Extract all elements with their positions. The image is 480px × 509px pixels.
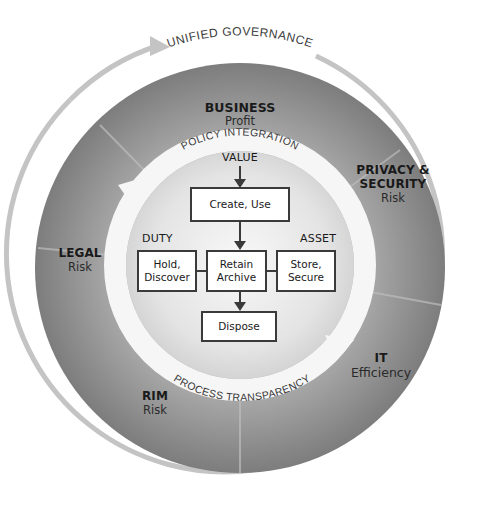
hold-text-line1: Hold, xyxy=(153,258,180,271)
rim-subtitle: Risk xyxy=(130,404,180,417)
unified-governance-label: UNIFIED GOVERNANCE xyxy=(165,24,315,50)
sector-legal: LEGAL Risk xyxy=(52,247,108,274)
it-title: IT xyxy=(346,352,416,366)
svg-text:UNIFIED GOVERNANCE: UNIFIED GOVERNANCE xyxy=(165,24,315,50)
hold-discover-box: Hold, Discover xyxy=(137,250,197,292)
duty-label: DUTY xyxy=(142,232,173,245)
sector-rim: RIM Risk xyxy=(130,390,180,417)
privacy-title-line1: PRIVACY & xyxy=(350,164,436,178)
create-use-box: Create, Use xyxy=(190,187,290,222)
business-title: BUSINESS xyxy=(195,101,285,115)
legal-subtitle: Risk xyxy=(52,261,108,274)
store-text-line1: Store, xyxy=(290,258,321,271)
retain-text-line2: Archive xyxy=(217,271,256,284)
sector-privacy-security: PRIVACY & SECURITY Risk xyxy=(350,164,436,205)
privacy-subtitle: Risk xyxy=(350,192,436,205)
rim-title: RIM xyxy=(130,390,180,404)
value-label: VALUE xyxy=(215,151,265,164)
dispose-box: Dispose xyxy=(201,311,277,342)
dispose-text: Dispose xyxy=(218,320,260,333)
sector-business: BUSINESS Profit xyxy=(195,101,285,129)
privacy-title-line2: SECURITY xyxy=(350,178,436,192)
store-secure-box: Store, Secure xyxy=(276,250,336,292)
asset-label: ASSET xyxy=(300,232,336,245)
create-use-text: Create, Use xyxy=(209,198,270,211)
store-text-line2: Secure xyxy=(288,271,324,284)
it-subtitle: Efficiency xyxy=(346,366,416,380)
retain-archive-box: Retain Archive xyxy=(206,250,267,292)
sector-it: IT Efficiency xyxy=(346,352,416,380)
hold-text-line2: Discover xyxy=(144,271,190,284)
retain-text-line1: Retain xyxy=(220,258,253,271)
business-subtitle: Profit xyxy=(195,115,285,128)
legal-title: LEGAL xyxy=(52,247,108,261)
